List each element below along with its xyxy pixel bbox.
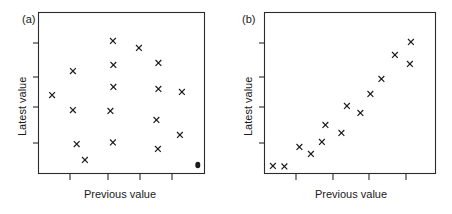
figure-container: (a) Latest value Previous value bbox=[0, 0, 452, 214]
panel-b: (b) Latest value Previous value bbox=[226, 0, 452, 214]
panel-a-x-ticks bbox=[70, 174, 172, 181]
panel-b-y-ticks bbox=[259, 43, 265, 143]
panel-a-frame bbox=[39, 13, 205, 174]
panel-a-data-points bbox=[49, 38, 200, 168]
panel-a-plot-area bbox=[0, 0, 226, 214]
panel-a-y-ticks bbox=[33, 43, 39, 143]
panel-b-data-points bbox=[270, 39, 414, 169]
panel-b-x-ticks bbox=[296, 174, 406, 181]
panel-b-plot-area bbox=[226, 0, 452, 214]
panel-a: (a) Latest value Previous value bbox=[0, 0, 226, 214]
panel-b-frame bbox=[265, 13, 436, 174]
panel-a-outlier-marker bbox=[195, 162, 200, 168]
